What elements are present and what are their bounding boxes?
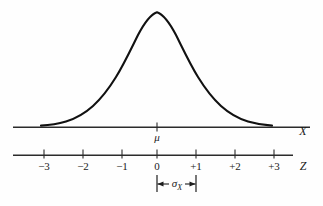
z-tick-label-pos2: +2: [229, 160, 241, 172]
sigma-x-label: σX: [172, 177, 183, 192]
normal-distribution-figure: μ X −3 −2 −1 0 +1 +2 +3 Z σX: [0, 0, 323, 206]
sigma-arrowhead-right: [190, 181, 196, 186]
x-axis-name: X: [298, 124, 307, 138]
figure-canvas: μ X −3 −2 −1 0 +1 +2 +3 Z σX: [0, 0, 323, 206]
z-tick-label-neg3: −3: [38, 160, 50, 172]
z-tick-label-zero: 0: [154, 160, 160, 172]
z-axis-name: Z: [300, 159, 307, 173]
z-tick-label-neg1: −1: [116, 160, 128, 172]
sigma-subscript: X: [176, 183, 183, 192]
z-tick-label-pos1: +1: [190, 160, 202, 172]
z-tick-label-neg2: −2: [77, 160, 89, 172]
normal-curve: [41, 12, 272, 125]
mu-label: μ: [153, 131, 160, 143]
z-tick-label-pos3: +3: [268, 160, 280, 172]
sigma-arrowhead-left: [158, 181, 164, 186]
